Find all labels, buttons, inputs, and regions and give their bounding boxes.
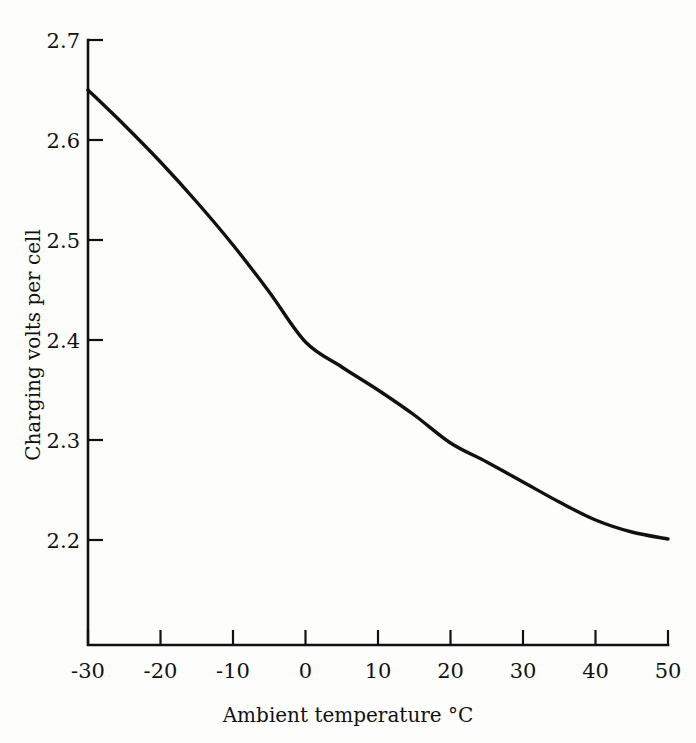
- x-axis-title: Ambient temperature °C: [222, 703, 474, 727]
- x-tick-label--20: -20: [144, 659, 178, 683]
- axis-spine: [88, 40, 668, 645]
- x-tick-label-50: 50: [655, 659, 682, 683]
- x-tick-label--10: -10: [216, 659, 250, 683]
- y-tick-label-2.4: 2.4: [47, 329, 80, 353]
- x-tick-label-20: 20: [437, 659, 464, 683]
- x-tick-label-10: 10: [365, 659, 392, 683]
- x-tick-label-0: 0: [299, 659, 312, 683]
- x-axis-tick-labels: -30 -20 -10 0 10 20 30 40 50: [71, 659, 681, 683]
- chart-plot: 2.7 2.6 2.5 2.4 2.3 2.2 -30 -20 -10 0 10: [0, 0, 696, 743]
- x-tick-label-40: 40: [582, 659, 609, 683]
- x-tick-label-30: 30: [510, 659, 537, 683]
- y-tick-label-2.3: 2.3: [47, 429, 80, 453]
- x-axis-ticks: [88, 630, 668, 645]
- y-tick-label-2.7: 2.7: [47, 29, 80, 53]
- y-tick-label-2.2: 2.2: [47, 529, 80, 553]
- y-axis-ticks: [88, 40, 103, 540]
- charging-voltage-curve: [88, 90, 668, 539]
- y-tick-label-2.5: 2.5: [47, 229, 80, 253]
- x-tick-label--30: -30: [71, 659, 105, 683]
- y-axis-tick-labels: 2.7 2.6 2.5 2.4 2.3 2.2: [47, 29, 80, 553]
- figure-canvas: 2.7 2.6 2.5 2.4 2.3 2.2 -30 -20 -10 0 10: [0, 0, 696, 743]
- y-axis-title: Charging volts per cell: [21, 229, 45, 461]
- y-tick-label-2.6: 2.6: [47, 129, 80, 153]
